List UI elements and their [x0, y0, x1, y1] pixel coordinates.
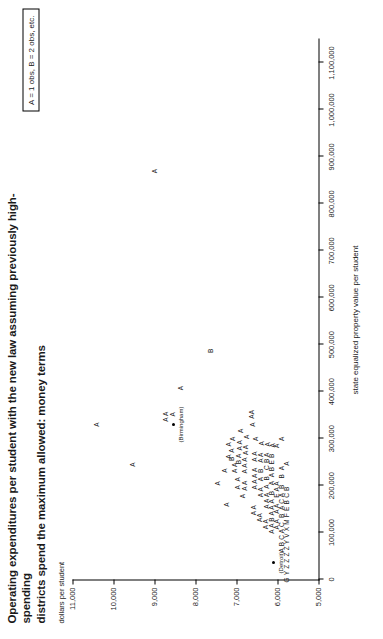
chart-title: Operating expenditures per student with … — [4, 153, 47, 623]
y-axis-tick-label: 6,000 — [273, 587, 282, 606]
data-point-glyph: A — [94, 422, 101, 427]
data-point-glyph: B — [208, 348, 215, 353]
legend-box: A = 1 obs, B = 2 obs, etc. — [22, 8, 39, 111]
data-point-glyph: A — [274, 443, 281, 448]
x-axis-tick-label: 100,000 — [326, 518, 335, 545]
data-point-glyph: A A A — [242, 457, 249, 473]
x-axis-tick-label: 200,000 — [326, 472, 335, 499]
y-axis-label: dollars per student — [56, 561, 65, 623]
x-axis-tick — [318, 249, 323, 250]
x-axis-tick — [318, 108, 323, 109]
y-axis-tick — [72, 579, 73, 584]
x-axis-tick — [318, 578, 323, 579]
rotated-figure-wrapper: Operating expenditures per student with … — [0, 0, 383, 639]
x-axis-tick-label: 400,000 — [326, 378, 335, 405]
chart-title-line-1: Operating expenditures per student with … — [5, 193, 31, 623]
y-axis-tick — [236, 579, 237, 584]
x-axis-tick-label: 500,000 — [326, 331, 335, 358]
x-axis-tick — [318, 390, 323, 391]
x-axis-tick — [318, 437, 323, 438]
plot-area: 5,0006,0007,0008,0009,00010,00011,000010… — [72, 39, 318, 579]
x-axis-tick-label: 1,100,000 — [326, 46, 335, 79]
chart-title-line-2: districts spend the maximum allowed: mon… — [33, 153, 47, 623]
data-point-glyph: A — [130, 462, 137, 467]
x-axis-tick — [318, 202, 323, 203]
y-axis-tick-label: 8,000 — [191, 587, 200, 606]
x-axis-tick-label: 900,000 — [326, 143, 335, 170]
x-axis-tick-label: 1,000,000 — [326, 93, 335, 126]
y-axis-tick — [195, 579, 196, 584]
y-axis-tick-label: 7,000 — [232, 587, 241, 606]
data-point-glyph: A — [152, 168, 159, 173]
data-point-glyph: A — [243, 434, 250, 439]
x-axis-tick-label: 800,000 — [326, 190, 335, 217]
data-point-glyph: A A — [243, 444, 250, 454]
data-point-glyph: A — [284, 461, 291, 466]
data-point-glyph: A — [279, 436, 286, 441]
y-axis-tick — [154, 579, 155, 584]
data-point-glyph: A — [178, 385, 185, 390]
data-point-glyph: A — [226, 441, 233, 446]
data-point-glyph: A — [215, 480, 222, 485]
y-axis-tick-label: 11,000 — [68, 587, 77, 609]
scatter-figure: Operating expenditures per student with … — [0, 0, 383, 639]
y-axis-tick-label: 5,000 — [314, 587, 323, 606]
x-axis-tick-label: 300,000 — [326, 425, 335, 452]
y-axis-tick — [277, 579, 278, 584]
x-axis-tick-label: 700,000 — [326, 237, 335, 264]
y-axis-tick — [113, 579, 114, 584]
point-annotation-label: (Birmingham) — [178, 406, 185, 442]
data-point-glyph: AA — [248, 409, 255, 418]
point-annotation-label: (Detroit) — [278, 551, 285, 573]
x-axis-tick — [318, 296, 323, 297]
data-point-glyph: A — [250, 422, 257, 427]
highlighted-point-marker — [272, 561, 275, 564]
x-axis-tick — [318, 343, 323, 344]
x-axis-label: state equalized property value per stude… — [350, 0, 359, 639]
x-axis-tick — [318, 155, 323, 156]
data-point-glyph: A — [170, 411, 177, 416]
y-axis-tick — [318, 579, 319, 584]
x-axis-tick — [318, 484, 323, 485]
highlighted-point-marker — [172, 423, 175, 426]
x-axis-tick — [318, 531, 323, 532]
data-point-glyph: A A — [241, 480, 248, 490]
data-point-glyph: A — [221, 468, 228, 473]
x-axis-tick-label: 0 — [326, 577, 335, 581]
data-point-glyph: A — [223, 502, 230, 507]
x-axis-tick — [318, 61, 323, 62]
x-axis-tick-label: 600,000 — [326, 284, 335, 311]
y-axis-tick-label: 10,000 — [109, 587, 118, 610]
y-axis-tick-label: 9,000 — [150, 587, 159, 606]
data-point-glyph: A — [237, 428, 244, 433]
chart-page: Operating expenditures per student with … — [0, 0, 383, 639]
data-point-glyph: A — [240, 493, 247, 498]
